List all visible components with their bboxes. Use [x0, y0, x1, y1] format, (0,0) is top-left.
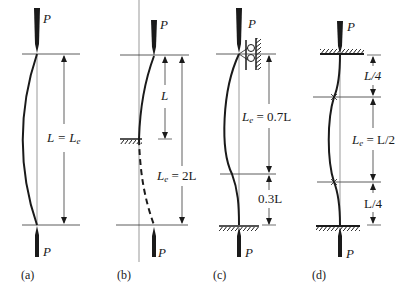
caption-b: (b) — [117, 268, 131, 282]
buckled-column-curve — [329, 54, 340, 225]
load-label-top: P — [159, 17, 168, 32]
caption-d: (d) — [312, 268, 326, 282]
load-label-bottom: P — [345, 246, 354, 261]
column-buckling-diagram: P P L = Le (a) P — [0, 0, 416, 296]
dimension-label-L: L — [160, 88, 168, 103]
panel-d: P P L/4 — [312, 19, 395, 282]
load-label-bottom: P — [157, 245, 166, 260]
panel-a: P P L = Le (a) — [21, 8, 81, 282]
load-arrow-bottom-icon — [237, 227, 241, 257]
buckled-column-curve — [139, 56, 154, 139]
load-arrow-top-icon — [34, 8, 40, 53]
load-label-bottom: P — [42, 244, 51, 259]
load-label-top: P — [42, 11, 51, 26]
dimension-label-b: Le = 2L — [156, 168, 197, 184]
dimension-label-0.3L: 0.3L — [258, 191, 282, 206]
load-arrow-bottom-icon — [338, 227, 342, 257]
load-label-top: P — [247, 16, 256, 31]
buckled-column-curve — [224, 54, 239, 225]
dimension-label-L4-top: L/4 — [363, 68, 382, 83]
dimension-label-d: Le = L/2 — [351, 132, 395, 148]
load-arrow-top-icon — [151, 20, 157, 56]
load-arrow-bottom-icon — [152, 227, 156, 257]
load-label-bottom: P — [244, 245, 253, 260]
dimension-label-a: L = Le — [46, 130, 81, 146]
caption-a: (a) — [21, 268, 34, 282]
fixed-support-hatch-top — [320, 49, 364, 53]
fixed-support-hatch-bottom — [316, 227, 360, 231]
panel-b: P P L Le = 2L (b) — [116, 0, 197, 282]
dimension-label-L4-bottom: L/4 — [364, 196, 383, 211]
dimension-Le-2L — [179, 56, 185, 224]
load-arrow-bottom-icon — [35, 226, 39, 257]
mirrored-column-curve-dashed — [139, 139, 154, 225]
load-label-top: P — [346, 19, 355, 34]
dimension-label-c: Le = 0.7L — [241, 109, 291, 125]
caption-c: (c) — [213, 268, 226, 282]
buckled-column-curve — [23, 54, 37, 225]
panel-c: P P Le = 0.7L — [213, 8, 291, 282]
load-arrow-top-icon — [236, 8, 242, 53]
